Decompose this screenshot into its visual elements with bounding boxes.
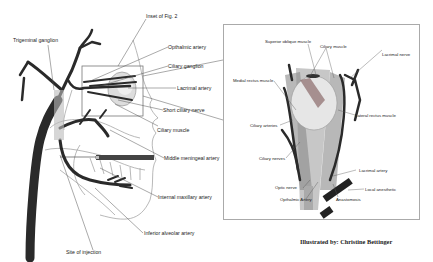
inset-label-superior-oblique-muscle: Superior oblique muscle: [265, 40, 311, 44]
label-site-of-injection: Site of injection: [66, 250, 101, 255]
label-inset-ref: Inset of Fig. 2: [146, 14, 177, 19]
label-short-ciliary-nerve: Short ciliary nerve: [163, 108, 205, 113]
label-lacrimal-artery: Lacrimal artery: [177, 86, 211, 91]
inset-label-anastomosis: Anastomosis: [336, 198, 361, 202]
inset-label-lateral-rectus-muscle: Lateral rectus muscle: [355, 114, 396, 118]
label-opthalmic-artery: Opthalmic artery: [168, 45, 206, 50]
label-trigeminal-ganglion: Trigeminal ganglion: [13, 38, 58, 43]
inset-label-lacrimal-nerve: Lacrimal nerve: [382, 53, 410, 57]
inset-label-opthalmic-artery: Opthalmic Artery: [280, 198, 312, 202]
inset-label-ciliary-arteries: Ciliary arteries: [250, 124, 277, 128]
inset-label-lacrimal-artery: Lacrimal artery: [359, 169, 387, 173]
inset-label-local-anesthetic: Local anesthetic: [365, 188, 396, 192]
label-inferior-alveolar-artery: Inferior alveolar artery: [144, 231, 194, 236]
label-ciliary-ganglion: Ciliary ganglion: [168, 64, 203, 69]
label-internal-maxillary-artery: Internal maxillary artery: [158, 195, 212, 200]
inset-label-medial-rectus-muscle: Medial rectus muscle: [233, 79, 273, 83]
leader-lines: [48, 19, 223, 250]
syringe: [96, 155, 154, 160]
label-middle-meningeal-artery: Middle meningeal artery: [164, 156, 219, 161]
label-ciliary-muscle: Ciliary muscle: [157, 128, 189, 133]
illustrator-credit: Illustrated by: Christine Bettinger: [300, 238, 392, 245]
vessels: [20, 30, 136, 258]
inset-label-ciliary-nerves: Ciliary nerves: [259, 157, 285, 161]
inset-label-ciliary-muscle: Ciliary muscle: [320, 45, 347, 49]
inset-label-optic-nerve: Optic nerve: [275, 186, 297, 190]
